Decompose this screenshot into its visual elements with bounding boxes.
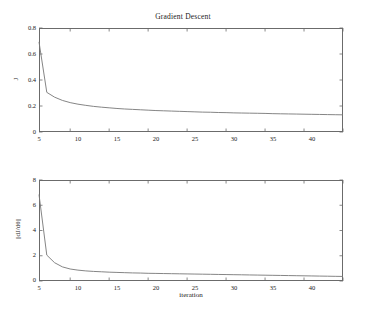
x-tick-grad-30: 30 <box>222 284 246 291</box>
y-tick-grad-4: 4 <box>18 226 36 233</box>
x-tick-grad-35: 35 <box>261 284 285 291</box>
y-tick-grad-0: 0 <box>18 276 36 283</box>
panel-gradient-norm: ||dJ/dθ|| 8 6 4 2 0 5 10 15 20 25 30 35 … <box>0 160 366 311</box>
x-tick-grad-5: 5 <box>27 284 51 291</box>
y-tick-cost-4: 0 <box>16 128 36 135</box>
y-tick-grad-2: 2 <box>18 251 36 258</box>
x-tick-cost-40: 40 <box>300 135 324 142</box>
x-tick-cost-15: 15 <box>105 135 129 142</box>
x-tick-grad-20: 20 <box>144 284 168 291</box>
x-axis-label: iteration <box>155 291 227 299</box>
y-tick-cost-1: 0.6 <box>16 50 36 57</box>
x-tick-grad-10: 10 <box>66 284 90 291</box>
y-tick-cost-0: 0.8 <box>16 24 36 31</box>
y-tick-grad-8: 8 <box>18 176 36 183</box>
x-tick-cost-5: 5 <box>27 135 51 142</box>
x-tick-cost-20: 20 <box>144 135 168 142</box>
figure-canvas: Gradient Descent J 0.8 0.6 0.4 0.2 0 5 1… <box>0 0 366 311</box>
y-tick-cost-3: 0.2 <box>16 102 36 109</box>
y-tick-grad-6: 6 <box>18 201 36 208</box>
x-tick-grad-15: 15 <box>105 284 129 291</box>
x-tick-grad-25: 25 <box>183 284 207 291</box>
panel-cost: Gradient Descent J 0.8 0.6 0.4 0.2 0 5 1… <box>0 0 366 160</box>
x-tick-grad-40: 40 <box>300 284 324 291</box>
x-tick-cost-25: 25 <box>183 135 207 142</box>
x-tick-cost-10: 10 <box>66 135 90 142</box>
x-tick-cost-30: 30 <box>222 135 246 142</box>
x-tick-cost-35: 35 <box>261 135 285 142</box>
y-tick-cost-2: 0.4 <box>16 76 36 83</box>
